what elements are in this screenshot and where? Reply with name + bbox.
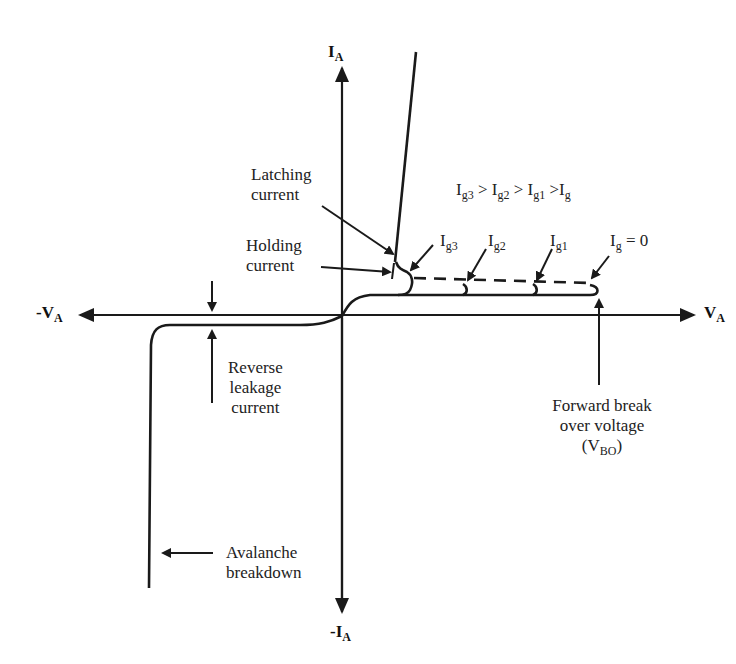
gate-curve-label-ig0: Ig = 0 [610,231,648,256]
characteristic-plot [0,0,736,664]
neg-y-axis-label: -IA [330,622,351,645]
ig2-arrow [468,249,486,280]
x-axis-label: VA [704,303,725,326]
gate-curve-label-ig2: Ig2 [488,231,506,256]
gate-curve-label-ig1: Ig1 [550,231,568,256]
latching-current-label: Latchingcurrent [251,165,311,205]
holding-tick [392,263,394,279]
neg-x-axis-label: -VA [36,303,63,326]
axes [80,68,694,612]
holding-current-label: Holdingcurrent [246,236,302,276]
ig0-arrow [592,256,609,278]
dashed-transition [414,278,592,283]
y-axis-label: IA [328,42,343,65]
forward-breakover-label: Forward break over voltage (VBO) [540,396,664,461]
reverse-leakage-label: Reverseleakagecurrent [228,358,283,418]
gate-current-relation: Ig3 > Ig2 > Ig1 >Ig [456,180,571,205]
gate-curve-label-ig3: Ig3 [440,231,458,256]
holding-arrow [321,267,390,272]
latching-arrow [322,206,393,254]
characteristic-curve [149,52,598,588]
ig3-arrow [411,245,433,270]
avalanche-breakdown-label: Avalanchebreakdown [226,543,302,583]
